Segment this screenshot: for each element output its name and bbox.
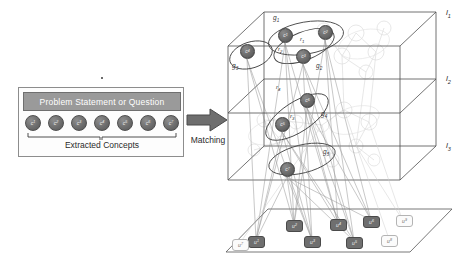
- concept-sub: 1: [33, 121, 35, 125]
- network-node-c7: c7: [280, 162, 295, 177]
- relation-label-sub: 2: [280, 49, 282, 54]
- network-node-c2: c2: [318, 25, 333, 40]
- right-arrow-icon: [186, 108, 228, 132]
- relation-label-r4: r4: [276, 84, 280, 92]
- network-node-c4: c4: [240, 44, 255, 59]
- user-node-u1: u1: [248, 236, 265, 248]
- group-label-g2: g2: [316, 62, 322, 71]
- node-label-sub: 7: [288, 168, 290, 172]
- user-node-u3: u3: [304, 236, 321, 248]
- layer-label-sub: 1: [448, 13, 451, 19]
- user-label-sub: 5: [355, 241, 357, 245]
- concept-sub: 3: [79, 121, 81, 125]
- node-label-sub: 4: [248, 50, 250, 54]
- node-label-sub: 3: [304, 55, 306, 59]
- figure-root: Problem Statement or Question c1 c2 c3 c…: [0, 0, 464, 272]
- concept-node: c6: [140, 115, 156, 131]
- concept-sub: 6: [148, 121, 150, 125]
- network-node-c5: c5: [275, 117, 290, 132]
- group-label-g3: g3: [232, 62, 238, 71]
- relation-label-sub: 3: [292, 116, 294, 121]
- user-label-sub: 4: [339, 223, 341, 227]
- concept-node: c7: [163, 115, 179, 131]
- relation-label-r2: r2: [278, 46, 282, 54]
- concept-sub: 2: [56, 121, 58, 125]
- relation-label-r3: r3: [290, 113, 294, 121]
- extracted-concepts-row: c1 c2 c3 c4 c5 c6 c7: [25, 115, 179, 131]
- group-label-g4: g4: [321, 110, 327, 119]
- concept-sub: 4: [102, 121, 104, 125]
- user-node-u5: u5: [346, 237, 363, 249]
- extracted-concepts-caption: Extracted Concepts: [19, 140, 185, 150]
- user-node-u2: u2: [286, 220, 303, 232]
- user-label-sub: 7: [241, 243, 243, 247]
- layer-label-l2: l2: [446, 74, 451, 85]
- matching-arrow: [186, 108, 228, 132]
- concepts-brace-icon: [27, 133, 177, 140]
- group-label-sub: 3: [236, 66, 239, 71]
- group-label-sub: 2: [320, 66, 323, 71]
- node-label-sub: 2: [326, 31, 328, 35]
- user-label-sub: 3: [313, 240, 315, 244]
- user-label-sub: 2: [295, 224, 297, 228]
- concept-node: c5: [117, 115, 133, 131]
- layer-label-sub: 2: [448, 79, 451, 85]
- group-label-sub: 1: [277, 18, 280, 23]
- problem-statement-text: Problem Statement or Question: [40, 97, 165, 107]
- multilayer-network: l1 l2 l3 c1 c2 c3 c4 c5 c6 c7: [224, 0, 464, 272]
- concept-node: c4: [94, 115, 110, 131]
- group-ellipses: [224, 0, 464, 272]
- concept-node: c3: [71, 115, 87, 131]
- user-node-u6: u6: [363, 216, 380, 228]
- group-label-g5: g5: [323, 148, 329, 157]
- layer-label-l1: l1: [446, 8, 451, 19]
- relation-label-sub: 4: [278, 87, 280, 92]
- layer-label-sub: 3: [448, 146, 451, 152]
- network-node-c1: c1: [278, 28, 293, 43]
- layer-label-l3: l3: [446, 141, 451, 152]
- user-node-u9: u9: [396, 215, 413, 227]
- user-label-sub: 8: [390, 239, 392, 243]
- network-node-c3: c3: [296, 49, 311, 64]
- user-label-sub: 1: [257, 240, 259, 244]
- stray-dot-mark: [101, 77, 103, 79]
- concept-node: c1: [25, 115, 41, 131]
- node-label-sub: 6: [308, 99, 310, 103]
- group-ellipse-g5: [266, 137, 339, 181]
- relation-label-sub: 1: [302, 39, 304, 44]
- node-label-sub: 1: [286, 34, 288, 38]
- user-node-u7: u7: [232, 239, 249, 251]
- user-label-sub: 9: [405, 219, 407, 223]
- concept-sub: 7: [171, 121, 173, 125]
- concept-node: c2: [48, 115, 64, 131]
- group-label-sub: 5: [327, 152, 330, 157]
- network-node-c6: c6: [300, 93, 315, 108]
- group-label-g1: g1: [273, 14, 279, 23]
- problem-statement-header: Problem Statement or Question: [23, 92, 181, 111]
- relation-label-r1: r1: [300, 36, 304, 44]
- user-node-u4: u4: [330, 219, 347, 231]
- node-label-sub: 5: [283, 123, 285, 127]
- group-label-sub: 4: [325, 114, 328, 119]
- problem-statement-panel: Problem Statement or Question c1 c2 c3 c…: [18, 87, 184, 157]
- user-label-sub: 6: [372, 220, 374, 224]
- user-node-u8: u8: [381, 235, 398, 247]
- concept-sub: 5: [125, 121, 127, 125]
